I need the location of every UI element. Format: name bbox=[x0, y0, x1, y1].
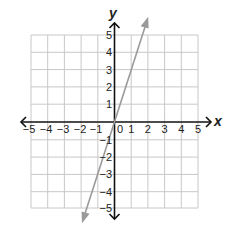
x-tick: −3 bbox=[57, 123, 70, 135]
x-tick: −5 bbox=[23, 123, 36, 135]
x-tick: −4 bbox=[40, 123, 53, 135]
line-down-arrow-icon bbox=[82, 213, 88, 222]
y-tick: −2 bbox=[99, 151, 112, 163]
y-tick: 3 bbox=[106, 64, 112, 76]
line-up-arrow-icon bbox=[142, 19, 148, 28]
x-tick: 4 bbox=[178, 123, 184, 135]
x-tick: 1 bbox=[128, 123, 134, 135]
y-tick: 2 bbox=[106, 81, 112, 93]
x-tick: 2 bbox=[145, 123, 151, 135]
x-tick: 3 bbox=[162, 123, 168, 135]
x-tick: 5 bbox=[195, 123, 201, 135]
y-tick: 5 bbox=[106, 29, 112, 41]
y-tick: 1 bbox=[106, 98, 112, 110]
y-tick: −3 bbox=[99, 168, 112, 180]
y-tick: −4 bbox=[99, 186, 112, 198]
x-tick: −2 bbox=[74, 123, 87, 135]
x-axis-label: x bbox=[213, 113, 223, 129]
y-axis-label: y bbox=[108, 5, 118, 21]
origin-label: 0 bbox=[117, 123, 123, 135]
y-tick: 4 bbox=[106, 46, 112, 58]
graph-svg: y x −5 −4 −3 −2 −1 0 1 2 3 4 5 5 4 3 2 1… bbox=[0, 0, 232, 232]
coordinate-plane: y x −5 −4 −3 −2 −1 0 1 2 3 4 5 5 4 3 2 1… bbox=[0, 0, 232, 232]
y-tick: −5 bbox=[99, 202, 112, 214]
y-tick: −1 bbox=[99, 134, 112, 146]
